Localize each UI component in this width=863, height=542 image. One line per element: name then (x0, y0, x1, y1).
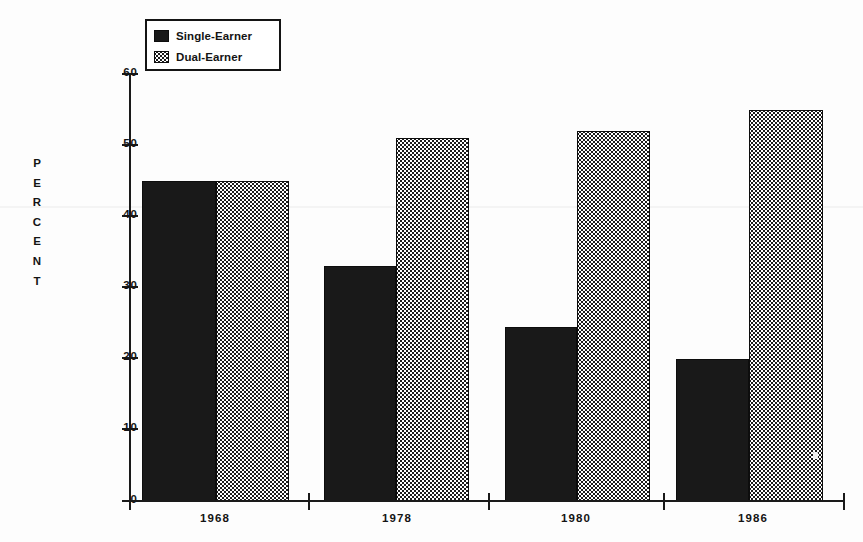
bar-dual-earner-1968 (216, 181, 289, 501)
bar-single-earner-1986 (676, 359, 749, 501)
x-axis-label-1986: 1986 (693, 512, 813, 524)
legend-swatch-solid-icon (154, 30, 169, 42)
x-axis-label-1980: 1980 (516, 512, 636, 524)
y-axis-tick-label: 60 (92, 66, 138, 78)
legend-label-dual-earner: Dual-Earner (176, 51, 242, 63)
bar-chart: P E R C E N T 60 50 40 30 20 10 0 (0, 0, 863, 542)
y-axis-title-letter: C (26, 213, 48, 233)
bar-single-earner-1978 (324, 266, 396, 501)
x-axis-tick-mark (308, 493, 310, 510)
x-axis-tick-mark (488, 493, 490, 510)
legend-item-single-earner: Single-Earner (154, 25, 279, 46)
y-axis-tick-label: 30 (92, 279, 138, 291)
bar-single-earner-1968 (142, 181, 216, 501)
y-axis-tick-label: 10 (92, 421, 138, 433)
legend-label-single-earner: Single-Earner (176, 30, 252, 42)
y-axis-title-letter: E (26, 174, 48, 194)
y-axis-title-letter: R (26, 193, 48, 213)
chart-legend: Single-Earner Dual-Earner (145, 19, 281, 71)
y-axis-title-letter: T (26, 272, 48, 292)
legend-swatch-dotted-icon (154, 51, 169, 63)
bar-dual-earner-1978 (396, 138, 469, 501)
x-axis-label-1978: 1978 (337, 512, 457, 524)
scan-speck-artifact (813, 452, 818, 459)
x-axis-tick-mark (663, 493, 665, 510)
y-axis-title-letter: N (26, 252, 48, 272)
x-axis-tick-mark (129, 493, 131, 510)
y-axis-title: P E R C E N T (26, 154, 48, 291)
y-axis-title-letter: E (26, 232, 48, 252)
bar-single-earner-1980 (505, 327, 577, 501)
y-axis-tick-label: 40 (92, 208, 138, 220)
y-axis-tick-label: 20 (92, 350, 138, 362)
x-axis-line (129, 500, 845, 502)
legend-item-dual-earner: Dual-Earner (154, 46, 279, 67)
x-axis-label-1968: 1968 (155, 512, 275, 524)
bar-dual-earner-1986 (749, 110, 823, 501)
bar-dual-earner-1980 (577, 131, 650, 501)
y-axis-title-letter: P (26, 154, 48, 174)
y-axis-tick-label: 50 (92, 137, 138, 149)
x-axis-tick-mark (843, 493, 845, 510)
